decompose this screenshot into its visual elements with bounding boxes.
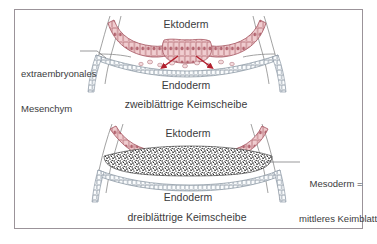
mesoderm-annotation-line2: mittleres Keimblatt	[299, 213, 373, 225]
top-endoderm-label: Endoderm	[150, 79, 222, 92]
embryology-figure: Ektoderm Endoderm zweiblättrige Keimsche…	[0, 0, 377, 244]
mesoderm-annotation: Mesoderm = mittleres Keimblatt	[299, 155, 373, 244]
extraembryonic-mesenchyme-annotation: extraembryonales Mesenchym	[21, 45, 97, 137]
mesoderm-layer	[96, 144, 282, 180]
top-ectoderm-label: Ektoderm	[150, 18, 222, 31]
bottom-ectoderm-label: Ektoderm	[152, 127, 224, 140]
top-primitive-streak	[162, 39, 212, 63]
top-panel-caption: zweiblättrige Keimscheibe	[110, 98, 262, 111]
extraembryonic-mesenchyme-line1: extraembryonales	[21, 68, 97, 80]
mesoderm-annotation-line1: Mesoderm =	[299, 178, 373, 190]
extraembryonic-mesenchyme-line2: Mesenchym	[21, 103, 97, 115]
bottom-panel-caption: dreiblättrige Keimscheibe	[108, 211, 266, 224]
bottom-endoderm-label: Endoderm	[152, 191, 224, 204]
